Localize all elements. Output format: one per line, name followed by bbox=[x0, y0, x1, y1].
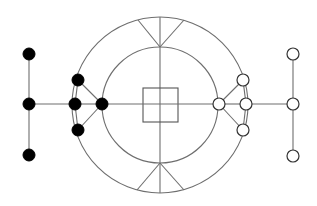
open-node-W3 bbox=[237, 124, 249, 136]
nodes-layer bbox=[23, 48, 299, 162]
top-spoke-right bbox=[160, 20, 184, 47]
filled-node-B3 bbox=[72, 124, 84, 136]
top-spoke-left bbox=[138, 20, 160, 47]
open-node-R1 bbox=[287, 48, 299, 60]
bottom-spoke-right bbox=[160, 163, 184, 190]
filled-node-L2 bbox=[23, 98, 35, 110]
open-node-R2 bbox=[287, 98, 299, 110]
open-node-W4 bbox=[213, 98, 225, 110]
bottom-spoke-left bbox=[137, 163, 160, 190]
spokes-layer bbox=[137, 17, 184, 193]
diagram-canvas bbox=[0, 0, 317, 206]
filled-node-B1 bbox=[72, 74, 84, 86]
open-node-W1 bbox=[237, 74, 249, 86]
open-node-W2 bbox=[240, 98, 252, 110]
filled-node-B2 bbox=[69, 98, 81, 110]
filled-node-L3 bbox=[23, 149, 35, 161]
filled-node-L1 bbox=[23, 48, 35, 60]
open-node-R3 bbox=[287, 150, 299, 162]
filled-node-B4 bbox=[96, 98, 108, 110]
